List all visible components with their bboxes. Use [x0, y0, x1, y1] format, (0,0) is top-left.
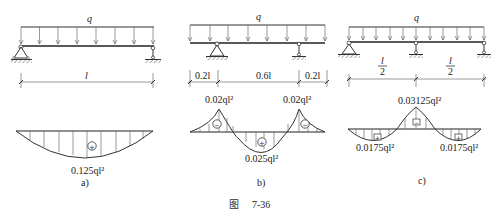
- moment-diagram-b: − + −: [190, 109, 325, 153]
- load-arrows: [347, 27, 486, 40]
- span-label-middle: 0.6l: [256, 70, 272, 81]
- panel-a: q: [11, 13, 161, 189]
- figure-caption-number: 7-36: [252, 199, 270, 210]
- svg-text:+: +: [375, 134, 380, 141]
- span-label-left: 0.2l: [195, 70, 211, 81]
- roller-support-icon: [292, 42, 306, 60]
- span-label-l: l: [85, 70, 88, 81]
- span-label-right-fraction: l 2: [446, 55, 455, 77]
- svg-text:l: l: [381, 55, 384, 66]
- moment-value-left-support: 0.02ql²: [205, 94, 233, 105]
- panel-c: q: [338, 12, 491, 187]
- pin-support-icon: [338, 41, 360, 58]
- svg-text:−: −: [302, 122, 308, 130]
- load-label-q: q: [256, 11, 261, 22]
- span-label-right: 0.2l: [305, 70, 321, 81]
- moment-value-max: 0.125ql²: [71, 165, 104, 176]
- moment-diagram-a: +: [16, 131, 153, 158]
- span-label-left-fraction: l 2: [378, 55, 387, 77]
- panel-b: q: [188, 11, 329, 189]
- svg-text:l: l: [449, 55, 452, 66]
- svg-text:+: +: [456, 134, 461, 141]
- svg-text:2: 2: [380, 66, 385, 77]
- moment-value-middle-support: 0.03125ql²: [398, 95, 441, 106]
- panel-label-c: c): [418, 175, 426, 187]
- moment-value-right-support: 0.02ql²: [283, 94, 311, 105]
- svg-text:−: −: [214, 122, 220, 130]
- moment-value-midspan: 0.025ql²: [245, 153, 278, 164]
- roller-support-icon: [409, 41, 423, 58]
- pin-support-icon: [11, 45, 32, 63]
- roller-support-icon: [477, 41, 491, 58]
- moment-value-left-span: 0.0175ql²: [356, 142, 394, 153]
- load-arrows: [188, 25, 327, 41]
- svg-text:+: +: [89, 144, 95, 152]
- panel-label-a: a): [81, 177, 89, 189]
- beam-moment-diagram-figure: q: [0, 0, 497, 214]
- figure-caption-prefix: 图: [229, 199, 239, 210]
- svg-text:+: +: [259, 140, 265, 148]
- pin-support-icon: [206, 42, 228, 60]
- panel-label-b: b): [257, 177, 265, 189]
- load-label-q: q: [414, 12, 419, 23]
- roller-support-icon: [145, 46, 161, 63]
- load-label-q: q: [87, 13, 92, 24]
- svg-text:2: 2: [448, 66, 453, 77]
- moment-diagram-c: + − +: [348, 107, 481, 141]
- load-arrows: [19, 27, 155, 44]
- svg-text:−: −: [414, 119, 419, 126]
- moment-value-right-span: 0.0175ql²: [440, 142, 478, 153]
- span-dimensions: [347, 74, 486, 87]
